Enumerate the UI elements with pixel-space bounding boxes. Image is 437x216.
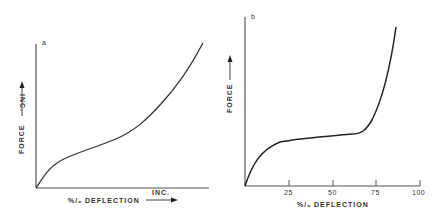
- panel-a-y-label: FORCE: [18, 125, 25, 155]
- panel-a-curve: [36, 43, 203, 188]
- tick-label-75: 75: [371, 189, 380, 196]
- tick-label-25: 25: [284, 189, 293, 196]
- panel-b-letter: b: [251, 13, 256, 20]
- tick-label-50: 50: [328, 189, 337, 196]
- charts-canvas: [0, 0, 437, 216]
- panel-a-x-label: %/ₒ DEFLECTION: [68, 197, 140, 204]
- tick-label-100: 100: [412, 189, 425, 196]
- panel-b-y-label: FORCE: [226, 84, 233, 114]
- panel-a-letter: a: [42, 39, 47, 46]
- arrow-right-icon: [171, 198, 178, 203]
- arrow-up-icon: [228, 55, 233, 62]
- panel-b-curve: [245, 27, 396, 186]
- arrow-up-icon: [20, 81, 25, 88]
- panel-b-x-label: %/ₒ DEFLECTION: [297, 201, 369, 208]
- panel-a-x-inc: INC.: [152, 189, 170, 196]
- panel-a-y-inc: INC.: [19, 94, 26, 112]
